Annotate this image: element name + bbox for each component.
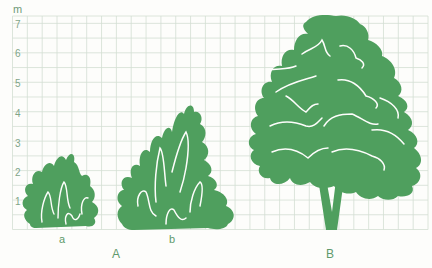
y-tick-4: 4 (15, 109, 21, 119)
growth-form-diagram: m 7 6 5 4 3 2 1 a b A B (0, 0, 432, 268)
y-tick-7: 7 (15, 20, 21, 30)
plant-b-label: b (169, 234, 175, 245)
y-axis-unit-label: m (13, 4, 22, 15)
plant-b-shrub (118, 105, 234, 230)
diagram-canvas (0, 0, 432, 268)
group-A-label: A (112, 248, 120, 260)
y-tick-2: 2 (15, 168, 21, 178)
y-tick-1: 1 (15, 197, 21, 207)
plant-a-label: a (59, 234, 65, 245)
plant-B-tree (249, 15, 421, 230)
y-tick-6: 6 (15, 49, 21, 59)
group-B-label: B (326, 248, 334, 260)
y-tick-3: 3 (15, 139, 21, 149)
y-tick-5: 5 (15, 79, 21, 89)
